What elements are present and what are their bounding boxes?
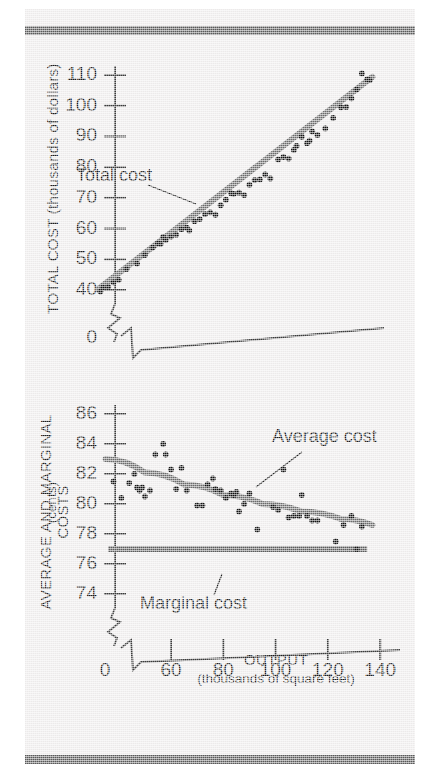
data-point — [213, 486, 219, 492]
data-point — [118, 495, 124, 501]
data-point — [213, 212, 219, 218]
page-margin-right — [415, 0, 428, 775]
y-tick-label: 84 — [76, 432, 98, 453]
data-point — [210, 476, 216, 482]
data-point — [233, 489, 239, 495]
data-point — [286, 515, 292, 521]
data-point — [252, 177, 258, 183]
data-point — [163, 452, 169, 458]
y-tick-label: 74 — [76, 582, 98, 603]
data-point — [247, 491, 253, 497]
data-point — [131, 471, 137, 477]
data-point — [192, 218, 198, 224]
data-point — [116, 277, 122, 283]
data-point — [349, 95, 355, 101]
page-margin-left — [0, 0, 25, 775]
y-tick-label: 80 — [76, 492, 97, 513]
data-point — [333, 539, 339, 545]
average-marginal-y-tick-labels: 86848280787674 — [76, 402, 98, 603]
data-point — [330, 115, 336, 121]
total-cost-leader-line — [148, 185, 196, 204]
data-point — [202, 211, 208, 217]
data-point — [231, 191, 237, 197]
y-tick-label: 70 — [76, 186, 97, 207]
data-point — [349, 513, 355, 519]
data-point — [199, 503, 205, 509]
data-point — [142, 252, 148, 258]
data-point — [142, 494, 148, 500]
x-axis-title: OUTPUT — [244, 651, 308, 668]
data-point — [359, 71, 365, 77]
total-cost-y-axis-title: TOTAL COST (thousands of dollars) — [44, 59, 61, 319]
data-point — [168, 234, 174, 240]
data-point — [281, 154, 287, 160]
data-point — [139, 485, 145, 491]
y-tick-label: 110 — [67, 63, 97, 84]
data-point — [359, 524, 365, 530]
data-point — [315, 132, 321, 138]
data-point — [218, 488, 224, 494]
data-point — [197, 216, 203, 222]
total-cost-y-tick-labels: 4050607080901001100 — [65, 63, 97, 347]
data-point — [205, 482, 211, 488]
data-point — [275, 507, 281, 513]
data-point — [315, 518, 321, 524]
figure-rule-top — [25, 26, 415, 35]
data-point — [111, 279, 117, 285]
data-point — [158, 241, 164, 247]
data-point — [343, 104, 349, 110]
data-point — [168, 467, 174, 473]
marginal-cost-leader-line — [214, 574, 222, 595]
total-cost-label: Total cost — [76, 165, 152, 185]
data-point — [309, 518, 315, 524]
x-tick-label: 60 — [160, 659, 181, 680]
figure-rule-bottom — [25, 755, 415, 764]
y-axis-origin-label: 0 — [86, 326, 97, 347]
data-point — [257, 177, 263, 183]
data-point — [134, 261, 140, 267]
chart-average-marginal-cost: 86848280787674 06080100120140 Average co… — [0, 395, 428, 695]
data-point — [111, 479, 117, 485]
data-point — [341, 522, 347, 528]
average-marginal-y-axis-subtitle: (cents) — [44, 433, 59, 573]
data-point — [299, 492, 305, 498]
average-cost-annotation: Average cost — [256, 426, 377, 487]
total-cost-y-axis-title-wrap: TOTAL COST (thousands of dollars) — [30, 52, 54, 352]
data-point — [296, 513, 302, 519]
data-point — [254, 527, 260, 533]
x-tick-label: 140 — [364, 659, 396, 680]
page-margin-bottom — [0, 764, 428, 775]
chart-total-cost: 4050607080901001100 Total cost TOTAL COS… — [0, 52, 428, 352]
y-tick-label: 82 — [76, 462, 97, 483]
y-tick-label: 50 — [76, 247, 97, 268]
data-point — [236, 509, 242, 515]
data-point — [194, 503, 200, 509]
data-point — [150, 245, 156, 251]
y-tick-label: 40 — [76, 278, 97, 299]
data-point — [160, 441, 166, 447]
data-point — [309, 129, 315, 135]
data-point — [173, 486, 179, 492]
data-point — [163, 237, 169, 243]
y-tick-label: 86 — [76, 402, 97, 423]
data-point — [241, 192, 247, 198]
data-point — [307, 138, 313, 144]
y-tick-label: 100 — [65, 94, 97, 115]
data-point — [179, 465, 185, 471]
data-point — [262, 172, 268, 178]
data-point — [241, 501, 247, 507]
marginal-cost-annotation: Marginal cost — [140, 574, 247, 613]
marginal-cost-label: Marginal cost — [140, 593, 247, 613]
data-point — [236, 190, 242, 196]
figure-panel: 4050607080901001100 Total cost TOTAL COS… — [0, 0, 428, 775]
x-tick-label: 0 — [100, 659, 111, 680]
data-point — [186, 228, 192, 234]
average-cost-label: Average cost — [272, 426, 377, 446]
data-point — [124, 266, 130, 272]
data-point — [322, 126, 328, 132]
y-tick-label: 60 — [76, 217, 97, 238]
data-point — [126, 480, 132, 486]
data-point — [223, 495, 229, 501]
data-point — [275, 157, 281, 163]
data-point — [294, 143, 300, 149]
